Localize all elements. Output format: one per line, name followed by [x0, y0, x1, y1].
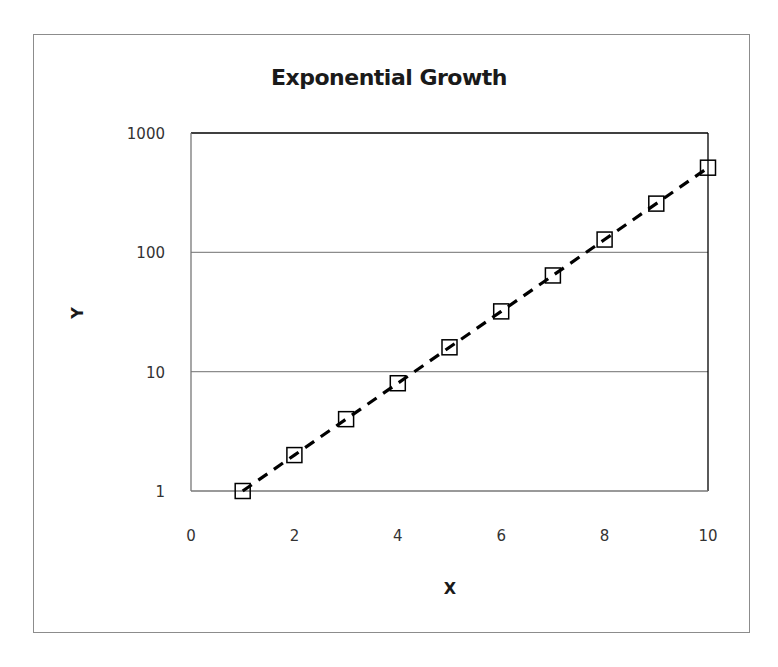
x-tick-label: 0	[186, 527, 196, 545]
plot-area: 1101001000 0246810 X Y	[0, 0, 778, 667]
y-tick-label: 1	[155, 483, 165, 501]
dashed-series-line	[243, 168, 708, 491]
y-tick-label: 100	[136, 244, 165, 262]
series-trendline	[243, 168, 708, 491]
x-tick-labels: 0246810	[186, 527, 717, 545]
x-tick-label: 2	[290, 527, 300, 545]
y-axis-title: Y	[68, 307, 87, 320]
y-tick-label: 10	[146, 364, 165, 382]
x-tick-label: 10	[698, 527, 717, 545]
x-tick-label: 4	[393, 527, 403, 545]
axes	[191, 133, 708, 491]
y-tick-labels: 1101001000	[127, 125, 165, 501]
x-axis-title: X	[444, 579, 457, 598]
x-tick-label: 6	[496, 527, 506, 545]
y-tick-label: 1000	[127, 125, 165, 143]
gridlines	[191, 252, 708, 371]
x-tick-label: 8	[600, 527, 610, 545]
